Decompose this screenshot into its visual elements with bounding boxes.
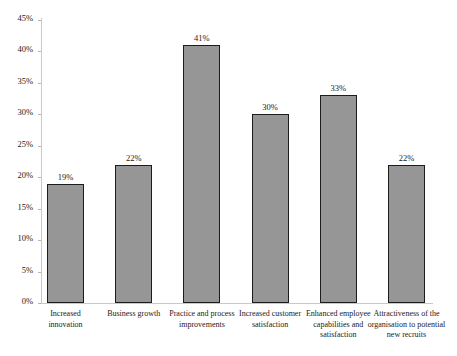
bar-series: 19%22%41%30%33%22%	[0, 0, 457, 356]
x-axis-category-label: Increased innovation	[35, 309, 97, 330]
x-axis-category-label: Enhanced employee capabilities and satis…	[301, 309, 375, 341]
bar-column[interactable]: 30%	[252, 114, 289, 303]
x-axis-category-label: Attractiveness of the organisation to po…	[368, 309, 446, 341]
bar-column[interactable]: 22%	[115, 165, 152, 303]
bar-column[interactable]: 22%	[388, 165, 425, 303]
bar-value-label: 22%	[126, 153, 142, 163]
x-axis-category-label: Business growth	[103, 309, 165, 320]
bar-value-label: 33%	[331, 83, 347, 93]
bar-column[interactable]: 19%	[47, 184, 84, 303]
bar-value-label: 22%	[399, 153, 415, 163]
bar-value-label: 19%	[58, 172, 74, 182]
bar[interactable]	[388, 165, 425, 303]
bar[interactable]	[252, 114, 289, 303]
x-axis-category-label: Increased customer satisfaction	[233, 309, 307, 330]
bar[interactable]	[183, 45, 220, 303]
bar[interactable]	[320, 95, 357, 303]
bar[interactable]	[47, 184, 84, 303]
bar-value-label: 30%	[262, 102, 278, 112]
bar-column[interactable]: 33%	[320, 95, 357, 303]
bar[interactable]	[115, 165, 152, 303]
bar-chart: 45%40%35%30%25%20%15%10%5%0% 19%22%41%30…	[0, 0, 457, 356]
x-axis-category-label: Practice and process improvements	[164, 309, 240, 330]
bar-value-label: 41%	[194, 33, 210, 43]
bar-column[interactable]: 41%	[183, 45, 220, 303]
